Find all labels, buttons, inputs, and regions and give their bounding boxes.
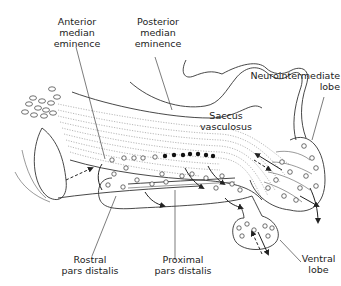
label-saccus-vasculosus: Saccus vasculosus xyxy=(195,110,257,132)
label-rostral-pars-distalis: Rostral pars distalis xyxy=(55,254,125,276)
neurointermediate-lobe xyxy=(250,137,325,211)
label-proximal-pars-distalis: Proximal pars distalis xyxy=(148,254,218,276)
label-anterior-median-eminence: Anterior median eminence xyxy=(52,16,102,49)
neurosecretory-cells xyxy=(22,87,61,118)
label-neurointermediate-lobe: Neurointermediate lobe xyxy=(240,70,340,92)
pars-distalis xyxy=(99,155,263,218)
nerve-fiber-tract xyxy=(58,92,290,200)
ventral-lobe xyxy=(233,216,279,250)
label-ventral-lobe: Ventral lobe xyxy=(296,253,341,275)
left-brain-outline xyxy=(15,128,200,202)
label-posterior-median-eminence: Posterior median eminence xyxy=(128,16,188,49)
nerve-terminals xyxy=(163,152,215,158)
